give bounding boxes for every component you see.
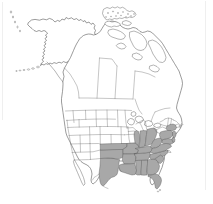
state-oklahoma: [100, 150, 123, 159]
state-louisiana: [119, 164, 137, 176]
coastal-islands: [10, 11, 20, 32]
state-texas: [99, 158, 120, 186]
state-arkansas: [123, 154, 137, 164]
north-america-map: [0, 0, 213, 204]
state-new-jersey: [173, 131, 177, 138]
state-mississippi: [136, 160, 142, 175]
aleutian-islands: [16, 66, 40, 71]
state-alabama: [141, 160, 148, 175]
state-kansas: [100, 144, 127, 151]
distribution-map-figure: North America distribution map Outline m…: [0, 0, 213, 204]
